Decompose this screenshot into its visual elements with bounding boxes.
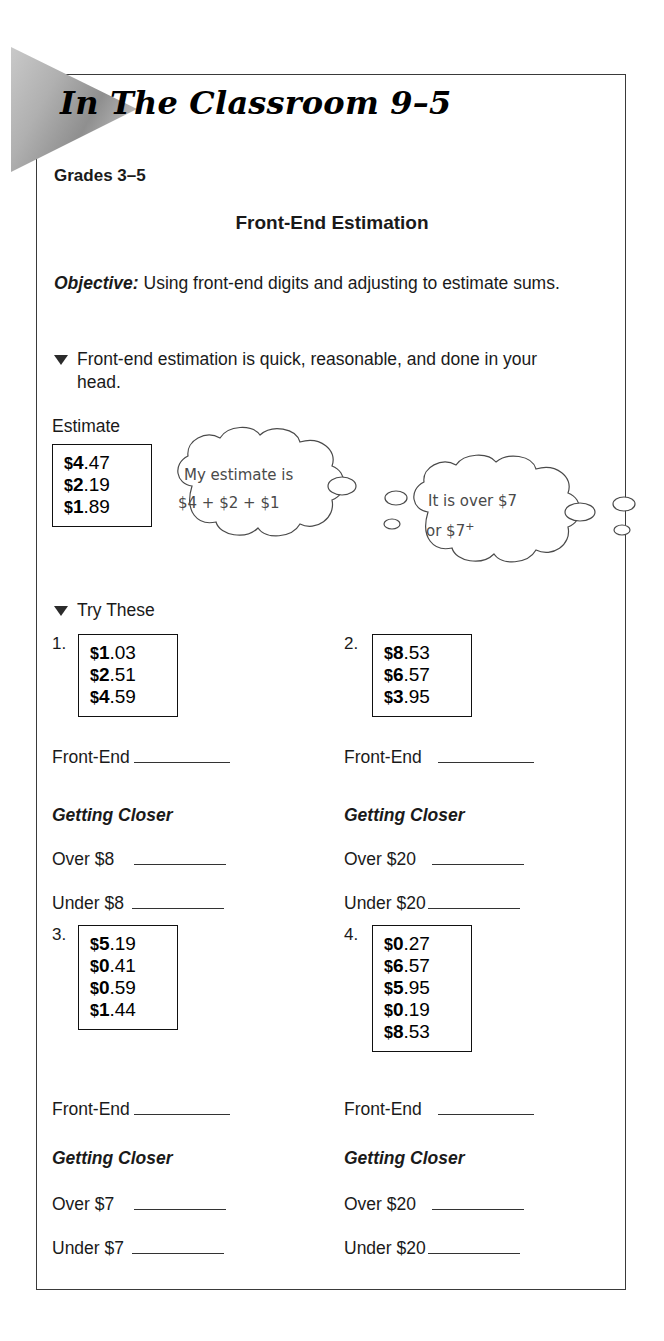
objective-label: Objective: bbox=[54, 273, 139, 293]
problem-money-box-3: $5.19$0.41$0.59$1.44 bbox=[78, 925, 178, 1030]
currency-symbol: $ bbox=[384, 1024, 393, 1041]
front-end-digit: 8 bbox=[393, 1021, 404, 1042]
under-blank-2[interactable] bbox=[428, 891, 520, 909]
front-end-row-4: Front-End bbox=[344, 1097, 534, 1120]
over-row-2: Over $20 bbox=[344, 847, 524, 870]
cents-part: .57 bbox=[403, 664, 429, 685]
front-end-blank-3[interactable] bbox=[134, 1097, 230, 1115]
front-end-digit: 6 bbox=[393, 955, 404, 976]
cents-part: .41 bbox=[109, 955, 135, 976]
under-blank-1[interactable] bbox=[132, 891, 224, 909]
cents-part: .19 bbox=[83, 474, 109, 495]
objective-block: Objective: Using front-end digits and ad… bbox=[54, 272, 564, 295]
currency-symbol: $ bbox=[90, 936, 99, 953]
front-end-digit: 0 bbox=[99, 977, 110, 998]
problem-2-value-line-3: $3.95 bbox=[384, 686, 460, 708]
over-label-3: Over $7 bbox=[52, 1194, 114, 1214]
problem-3-value-line-3: $0.59 bbox=[90, 977, 166, 999]
cents-part: .59 bbox=[109, 977, 135, 998]
front-end-digit: 1 bbox=[99, 999, 110, 1020]
under-row-4: Under $20 bbox=[344, 1236, 520, 1259]
getting-closer-heading-4: Getting Closer bbox=[344, 1148, 465, 1169]
under-blank-4[interactable] bbox=[428, 1236, 520, 1254]
try-these-label: Try These bbox=[77, 600, 155, 621]
triangle-bullet-icon bbox=[54, 606, 68, 616]
front-end-blank-2[interactable] bbox=[438, 745, 534, 763]
front-end-label-4: Front-End bbox=[344, 1099, 422, 1119]
example-value-line-1: $4.47 bbox=[64, 452, 140, 474]
under-label-4: Under $20 bbox=[344, 1238, 426, 1258]
thought-bubble-over-seven: It is over $7 or $7+ bbox=[388, 452, 628, 588]
problem-4-value-line-5: $8.53 bbox=[384, 1021, 460, 1043]
cents-part: .95 bbox=[403, 686, 429, 707]
problem-1-value-line-2: $2.51 bbox=[90, 664, 166, 686]
try-these-heading: Try These bbox=[54, 600, 155, 621]
under-label-1: Under $8 bbox=[52, 893, 124, 913]
cents-part: .89 bbox=[83, 496, 109, 517]
cents-part: .27 bbox=[403, 933, 429, 954]
front-end-digit: 1 bbox=[99, 642, 110, 663]
under-blank-3[interactable] bbox=[132, 1236, 224, 1254]
problem-4-value-line-2: $6.57 bbox=[384, 955, 460, 977]
cents-part: .19 bbox=[109, 933, 135, 954]
getting-closer-heading-2: Getting Closer bbox=[344, 805, 465, 826]
triangle-bullet-icon bbox=[54, 355, 68, 365]
cents-part: .51 bbox=[109, 664, 135, 685]
bullet-note: Front-end estimation is quick, reasonabl… bbox=[54, 348, 574, 394]
front-end-blank-4[interactable] bbox=[438, 1097, 534, 1115]
over-label-4: Over $20 bbox=[344, 1194, 416, 1214]
problem-number-1: 1. bbox=[52, 634, 66, 654]
currency-symbol: $ bbox=[384, 689, 393, 706]
currency-symbol: $ bbox=[64, 499, 73, 516]
front-end-digit: 0 bbox=[393, 999, 404, 1020]
front-end-digit: 2 bbox=[99, 664, 110, 685]
front-end-digit: 4 bbox=[99, 686, 110, 707]
front-end-digit: 8 bbox=[393, 642, 404, 663]
problem-money-box-1: $1.03$2.51$4.59 bbox=[78, 634, 178, 717]
getting-closer-heading-1: Getting Closer bbox=[52, 805, 173, 826]
cents-part: .59 bbox=[109, 686, 135, 707]
front-end-digit: 2 bbox=[73, 474, 84, 495]
worksheet-title: Front-End Estimation bbox=[0, 212, 664, 234]
example-money-box: $4.47$2.19$1.89 bbox=[52, 444, 152, 527]
problem-money-box-4: $0.27$6.57$5.95$0.19$8.53 bbox=[372, 925, 472, 1052]
currency-symbol: $ bbox=[90, 958, 99, 975]
front-end-row-2: Front-End bbox=[344, 745, 534, 768]
problem-3-value-line-2: $0.41 bbox=[90, 955, 166, 977]
front-end-blank-1[interactable] bbox=[134, 745, 230, 763]
problem-number-2: 2. bbox=[344, 634, 358, 654]
problem-number-4: 4. bbox=[344, 925, 358, 945]
front-end-label-3: Front-End bbox=[52, 1099, 130, 1119]
under-row-1: Under $8 bbox=[52, 891, 224, 914]
cents-part: .44 bbox=[109, 999, 135, 1020]
cents-part: .57 bbox=[403, 955, 429, 976]
currency-symbol: $ bbox=[90, 689, 99, 706]
currency-symbol: $ bbox=[384, 667, 393, 684]
over-blank-4[interactable] bbox=[432, 1192, 524, 1210]
thought-bubble-over-tail bbox=[608, 490, 648, 562]
thought-bubble-estimate: My estimate is $4 + $2 + $1 bbox=[150, 424, 380, 564]
currency-symbol: $ bbox=[90, 667, 99, 684]
cents-part: .53 bbox=[403, 1021, 429, 1042]
example-value-line-2: $2.19 bbox=[64, 474, 140, 496]
front-end-digit: 0 bbox=[99, 955, 110, 976]
cents-part: .53 bbox=[403, 642, 429, 663]
problem-2-value-line-2: $6.57 bbox=[384, 664, 460, 686]
over-blank-3[interactable] bbox=[134, 1192, 226, 1210]
front-end-label-1: Front-End bbox=[52, 747, 130, 767]
problem-1-value-line-3: $4.59 bbox=[90, 686, 166, 708]
currency-symbol: $ bbox=[384, 1002, 393, 1019]
example-value-line-3: $1.89 bbox=[64, 496, 140, 518]
front-end-digit: 6 bbox=[393, 664, 404, 685]
problem-1-value-line-1: $1.03 bbox=[90, 642, 166, 664]
over-blank-1[interactable] bbox=[134, 847, 226, 865]
over-blank-2[interactable] bbox=[432, 847, 524, 865]
currency-symbol: $ bbox=[90, 980, 99, 997]
getting-closer-heading-3: Getting Closer bbox=[52, 1148, 173, 1169]
front-end-digit: 5 bbox=[393, 977, 404, 998]
currency-symbol: $ bbox=[384, 645, 393, 662]
problem-3-value-line-4: $1.44 bbox=[90, 999, 166, 1021]
front-end-digit: 3 bbox=[393, 686, 404, 707]
front-end-digit: 0 bbox=[393, 933, 404, 954]
currency-symbol: $ bbox=[384, 980, 393, 997]
